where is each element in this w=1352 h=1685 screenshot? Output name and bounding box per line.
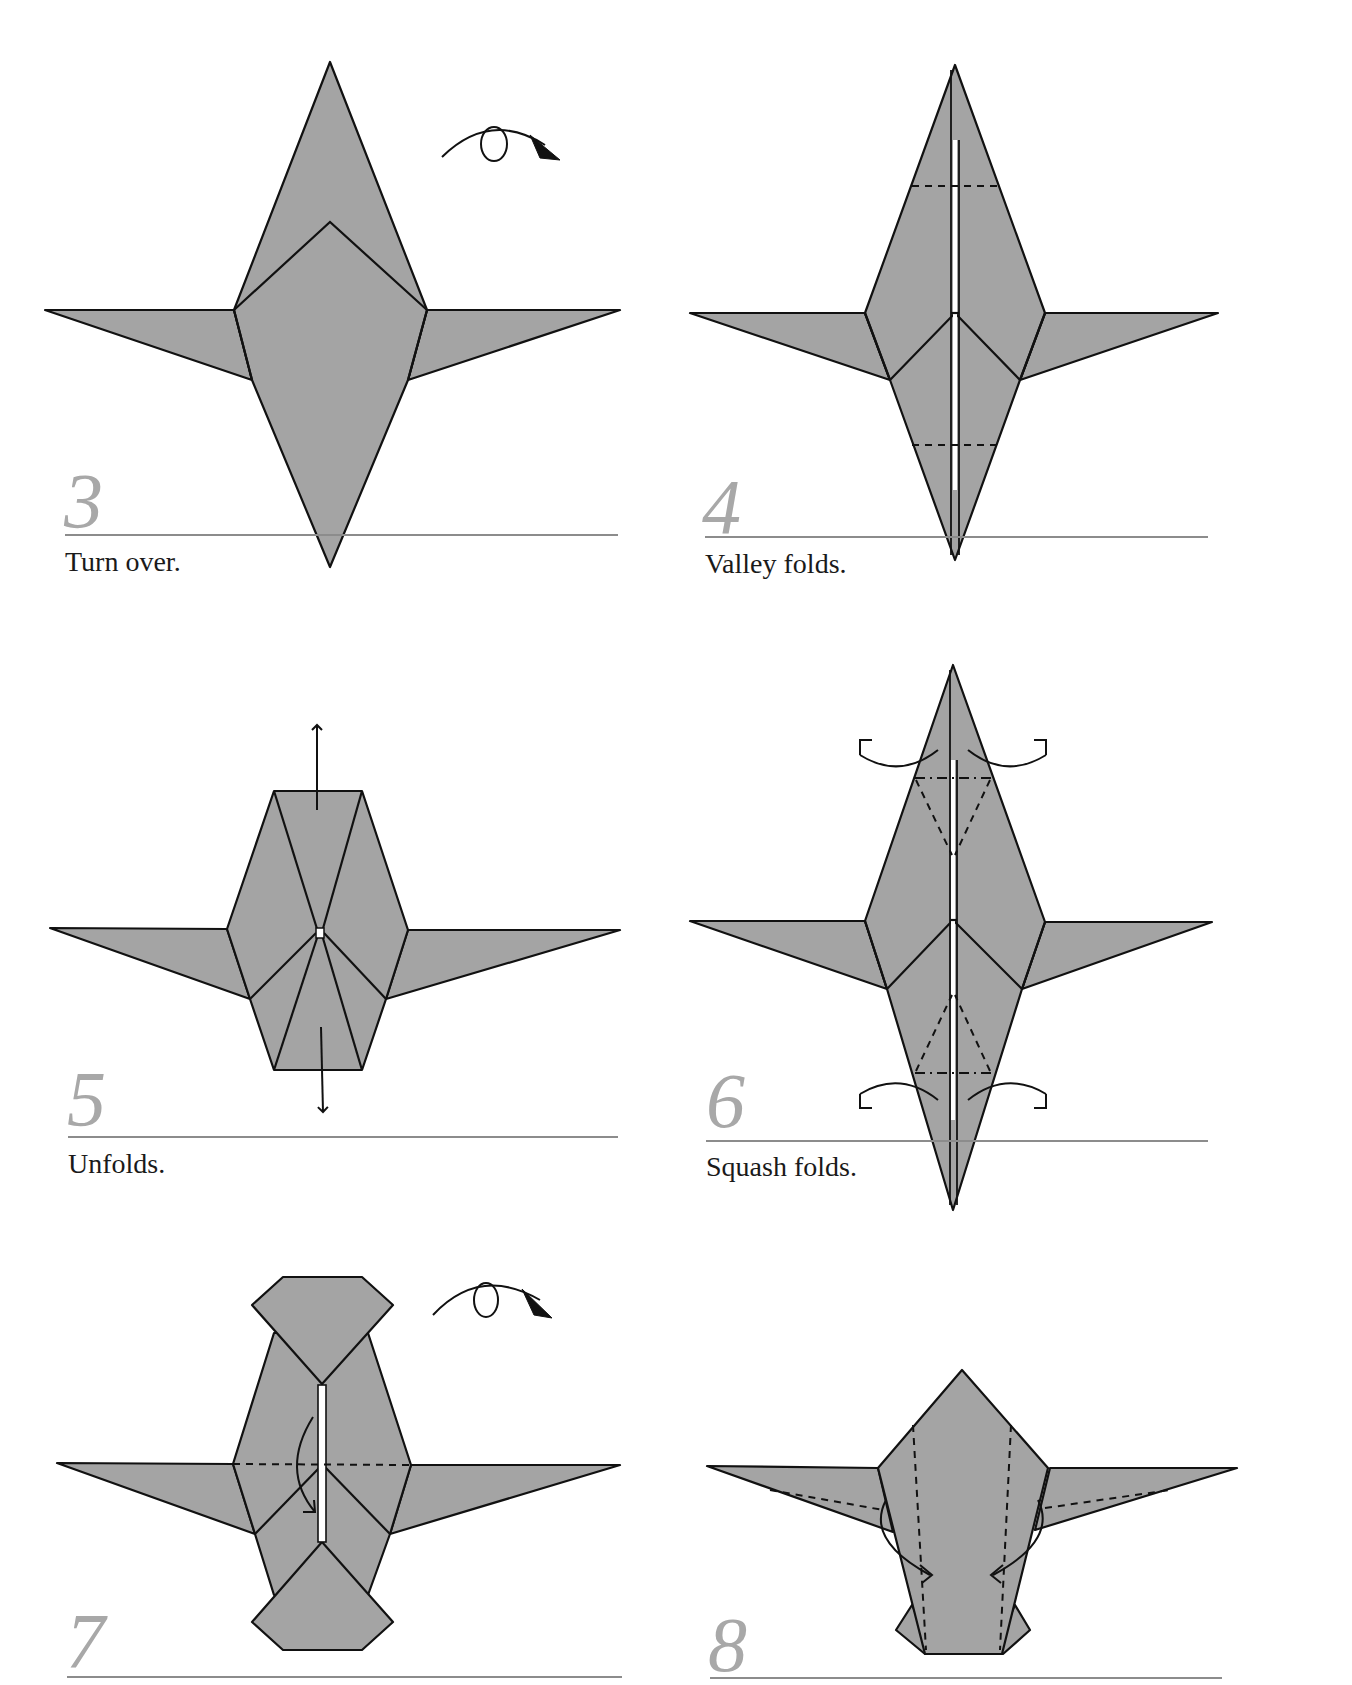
step-5-rule — [68, 1136, 618, 1138]
step-number-3: 3 — [64, 462, 103, 540]
step-number-8: 8 — [708, 1606, 747, 1684]
left-wing — [45, 310, 252, 380]
step-3-caption: Turn over. — [65, 548, 181, 576]
step-8-diagram — [707, 1370, 1237, 1654]
step-6-diagram — [690, 665, 1212, 1210]
right-wing — [408, 310, 620, 380]
step-5-diagram — [50, 725, 620, 1112]
step-number-4: 4 — [702, 468, 741, 546]
step-6-caption: Squash folds. — [706, 1153, 857, 1181]
step-7-rule — [67, 1676, 622, 1678]
step-number-7: 7 — [66, 1602, 105, 1680]
step-8-rule — [710, 1677, 1222, 1679]
step-number-5: 5 — [67, 1060, 106, 1138]
step-4-diagram — [690, 65, 1218, 560]
step-3-rule — [65, 534, 618, 536]
step-7-diagram — [57, 1277, 620, 1650]
step-3-diagram — [45, 62, 620, 567]
step-number-6: 6 — [706, 1062, 745, 1140]
body — [234, 62, 427, 567]
turn-over-arrow-icon — [442, 127, 560, 161]
step-4-caption: Valley folds. — [705, 550, 847, 578]
body — [878, 1370, 1048, 1654]
step-6-rule — [706, 1140, 1208, 1142]
step-5-caption: Unfolds. — [68, 1150, 165, 1178]
step-4-rule — [705, 536, 1208, 538]
turn-over-arrow-icon — [433, 1283, 552, 1318]
